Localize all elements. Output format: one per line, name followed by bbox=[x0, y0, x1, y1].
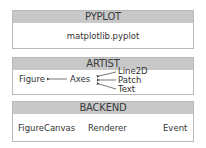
renderer-label: Renderer bbox=[88, 123, 127, 133]
pyplot-header: PYPLOT bbox=[13, 11, 193, 23]
pyplot-module-label: matplotlib.pyplot bbox=[13, 23, 193, 49]
pyplot-layer-box: PYPLOT matplotlib.pyplot bbox=[12, 10, 194, 49]
backend-header: BACKEND bbox=[13, 102, 193, 114]
backend-layer-box: BACKEND FigureCanvas Renderer Event bbox=[12, 101, 194, 142]
line2d-to-axes-arrow bbox=[99, 72, 116, 76]
artist-arrows bbox=[13, 58, 195, 96]
figurecanvas-label: FigureCanvas bbox=[18, 123, 75, 133]
text-to-axes-arrow bbox=[99, 84, 116, 89]
event-label: Event bbox=[163, 123, 187, 133]
artist-layer-box: ARTIST Figure Axes Line2D Patch Text bbox=[12, 57, 194, 95]
